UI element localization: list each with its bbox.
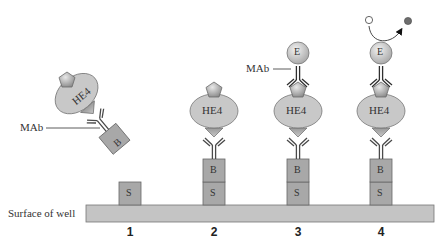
b-label-step4: B xyxy=(377,164,384,175)
step-3 xyxy=(273,42,322,205)
pentagon-epitope-icon xyxy=(206,82,222,97)
he4-label-step4: HE4 xyxy=(369,104,389,116)
s-label-step2: S xyxy=(210,187,216,198)
reaction-arrow-icon xyxy=(369,26,401,41)
step-number-1: 1 xyxy=(120,225,140,239)
he4-label-step2: HE4 xyxy=(202,104,222,116)
epitope-cone-icon xyxy=(205,128,223,137)
mab-label-left: MAb xyxy=(20,121,43,133)
epitope-cone-icon xyxy=(289,128,307,137)
capture-antibody-icon xyxy=(203,138,225,159)
mab-label-step3: MAb xyxy=(246,62,269,74)
he4-label-step3: HE4 xyxy=(286,104,306,116)
e-label-step4: E xyxy=(377,46,383,57)
substrate-open-circle-icon xyxy=(365,16,372,23)
s-label-step1: S xyxy=(126,187,132,198)
step-number-3: 3 xyxy=(288,225,308,239)
step-number-2: 2 xyxy=(204,225,224,239)
epitope-cone-icon xyxy=(372,128,390,137)
b-label-step2: B xyxy=(210,164,217,175)
step-number-4: 4 xyxy=(371,225,391,239)
well-surface xyxy=(86,205,434,222)
pentagon-epitope-icon xyxy=(59,72,75,87)
e-label-step3: E xyxy=(294,46,300,57)
b-label-step3: B xyxy=(294,164,301,175)
surface-label: Surface of well xyxy=(8,207,75,219)
capture-antibody-icon xyxy=(287,138,309,159)
capture-antibody-icon xyxy=(370,138,392,159)
product-filled-dot-icon xyxy=(404,17,411,24)
s-label-step3: S xyxy=(294,187,300,198)
s-label-step4: S xyxy=(377,187,383,198)
